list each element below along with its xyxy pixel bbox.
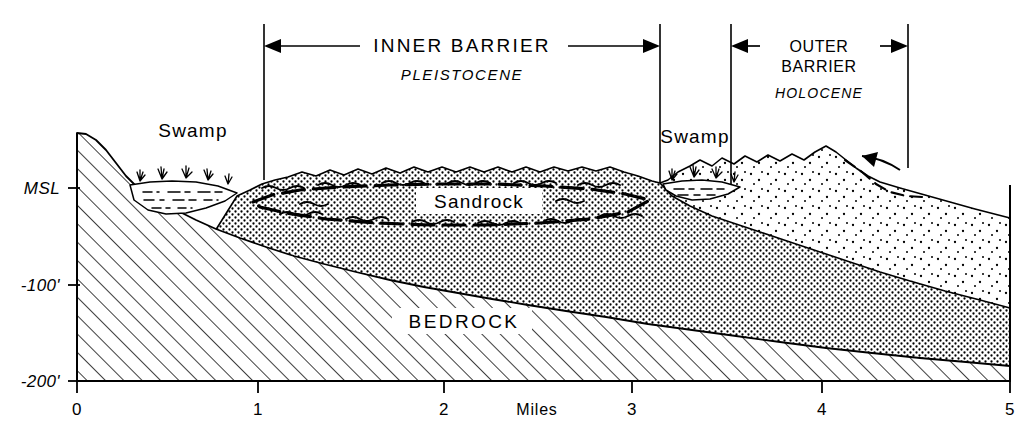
bedrock-label: BEDROCK xyxy=(409,311,520,332)
outer-barrier-epoch: HOLOCENE xyxy=(775,85,863,101)
dune-migration-arrow xyxy=(862,152,900,170)
swamp-label-left: Swamp xyxy=(158,120,227,141)
cross-section-drawing: INNER BARRIER PLEISTOCENE OUTER BARRIER … xyxy=(0,0,1035,437)
y-tick-label-minus100: -100' xyxy=(21,276,61,295)
x-axis-ticks xyxy=(77,381,1010,393)
swamp-label-right: Swamp xyxy=(660,126,729,147)
outer-barrier-title-line1: OUTER xyxy=(790,38,849,55)
sandrock-label: Sandrock xyxy=(434,191,524,212)
cross-section-figure: INNER BARRIER PLEISTOCENE OUTER BARRIER … xyxy=(0,0,1035,437)
x-tick-label-2: 2 xyxy=(439,400,449,419)
x-tick-label-3: 3 xyxy=(627,400,637,419)
x-tick-label-1: 1 xyxy=(253,400,263,419)
y-tick-label-minus200: -200' xyxy=(21,372,61,391)
outer-barrier-title-line2: BARRIER xyxy=(781,58,856,75)
inner-barrier-title: INNER BARRIER xyxy=(373,35,550,56)
y-tick-label-msl: MSL xyxy=(24,179,60,198)
inner-barrier-epoch: PLEISTOCENE xyxy=(401,66,523,83)
x-axis-title: Miles xyxy=(516,401,557,418)
x-tick-label-4: 4 xyxy=(817,400,827,419)
x-tick-label-0: 0 xyxy=(72,400,82,419)
swamp-basin-left xyxy=(130,181,237,214)
x-tick-label-5: 5 xyxy=(1005,400,1015,419)
